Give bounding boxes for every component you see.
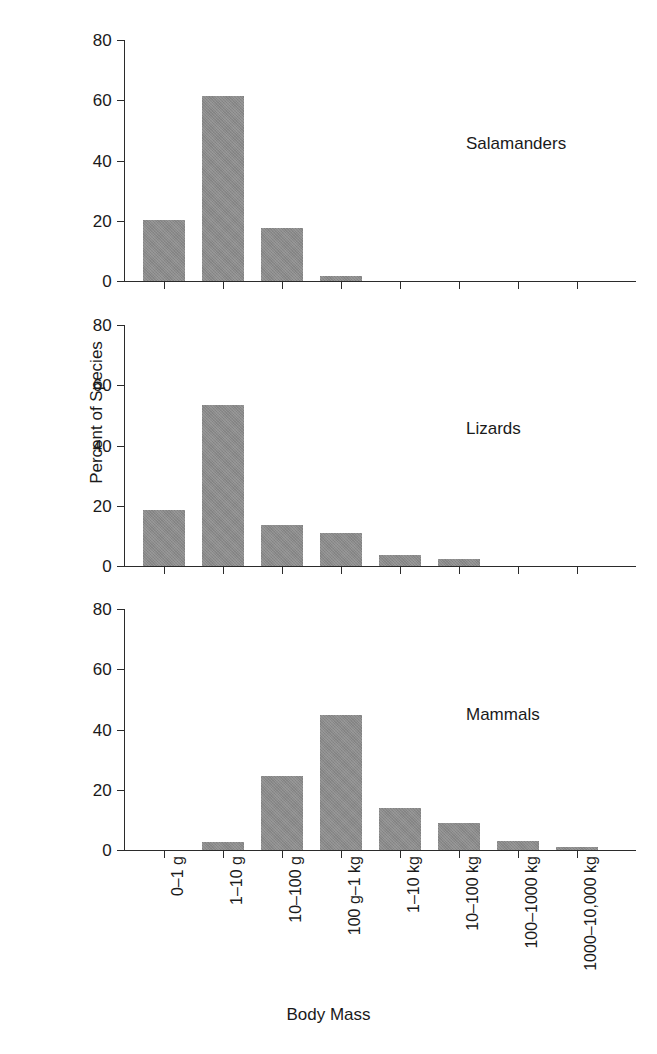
panel-mammals: 020406080 Mammals (0, 569, 657, 861)
x-axis-tick (341, 850, 342, 858)
bar (320, 715, 362, 850)
bar (261, 776, 303, 850)
y-axis-tick (117, 385, 124, 386)
y-axis-tick-label: 60 (68, 92, 112, 109)
y-axis-tick-label: 80 (68, 601, 112, 618)
x-axis-tick (518, 850, 519, 858)
y-axis-tick (117, 669, 124, 670)
y-axis-tick (117, 281, 124, 282)
bar (497, 841, 539, 850)
x-axis-category-label: 100 g–1 kg (347, 856, 363, 996)
plot-area-lizards: 020406080 (124, 325, 636, 566)
panel-salamanders: 020406080 Salamanders (0, 0, 657, 292)
bar (320, 533, 362, 566)
x-axis-category-label: 1000–10,000 kg (583, 856, 599, 996)
x-axis-tick (459, 850, 460, 858)
x-axis-category-label: 1–10 g (229, 856, 245, 996)
x-axis-tick (223, 850, 224, 858)
bar (556, 847, 598, 850)
y-axis-tick-label: 40 (68, 153, 112, 170)
bar (261, 525, 303, 566)
y-axis-tick (117, 40, 124, 41)
bar (438, 559, 480, 566)
x-axis-category-label: 10–100 kg (465, 856, 481, 996)
x-axis-category-label: 0–1 g (170, 856, 186, 996)
x-axis-tick (400, 850, 401, 858)
y-axis-tick (117, 325, 124, 326)
figure: 020406080 Salamanders 020406080 Lizards … (0, 0, 657, 1054)
x-axis-category-label: 10–100 g (288, 856, 304, 996)
y-axis-tick (117, 850, 124, 851)
y-axis-tick-label: 40 (68, 722, 112, 739)
x-axis-category-labels: 0–1 g1–10 g10–100 g100 g–1 kg1–10 kg10–1… (124, 858, 636, 998)
x-axis-tick (282, 850, 283, 858)
y-axis-tick (117, 566, 124, 567)
panel-title-salamanders: Salamanders (466, 135, 566, 152)
plot-area-mammals: 020406080 (124, 609, 636, 850)
y-axis-line (124, 325, 125, 566)
bar (320, 276, 362, 281)
bar (143, 510, 185, 566)
x-axis-tick (164, 850, 165, 858)
y-axis-tick-label: 80 (68, 32, 112, 49)
bar (202, 842, 244, 850)
y-axis-tick-label: 0 (68, 842, 112, 859)
y-axis-tick (117, 221, 124, 222)
x-axis-category-label: 1–10 kg (406, 856, 422, 996)
y-axis-tick-label: 20 (68, 782, 112, 799)
y-axis-tick-label: 60 (68, 661, 112, 678)
x-axis-line (124, 281, 636, 282)
bar (379, 555, 421, 566)
y-axis-line (124, 40, 125, 281)
x-axis-line (124, 566, 636, 567)
y-axis-tick (117, 100, 124, 101)
bar (202, 96, 244, 281)
y-axis-title: Percent of Species (88, 313, 105, 513)
x-axis-tick (577, 850, 578, 858)
x-axis-category-label: 100–1000 kg (524, 856, 540, 996)
bar (261, 228, 303, 281)
bar (379, 808, 421, 850)
bar (438, 823, 480, 850)
panel-title-mammals: Mammals (466, 706, 540, 723)
bar (202, 405, 244, 566)
y-axis-tick (117, 161, 124, 162)
y-axis-tick (117, 609, 124, 610)
x-axis-line (124, 850, 636, 851)
y-axis-line (124, 609, 125, 850)
y-axis-tick (117, 446, 124, 447)
y-axis-tick (117, 790, 124, 791)
y-axis-tick (117, 506, 124, 507)
x-axis-title: Body Mass (0, 1006, 657, 1023)
bar (143, 220, 185, 281)
y-axis-tick (117, 730, 124, 731)
plot-area-salamanders: 020406080 (124, 40, 636, 281)
y-axis-tick-label: 20 (68, 213, 112, 230)
panel-title-lizards: Lizards (466, 420, 521, 437)
